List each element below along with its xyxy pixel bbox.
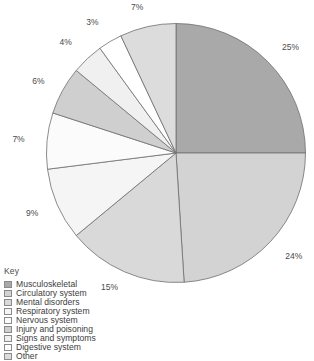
legend-color-swatch <box>4 317 12 324</box>
legend-color-swatch <box>4 326 12 333</box>
pie-slice-percentage-label: 9% <box>26 208 39 218</box>
legend-items: MusculoskeletalCirculatory systemMental … <box>3 280 153 360</box>
chart-legend: Key MusculoskeletalCirculatory systemMen… <box>3 266 153 361</box>
pie-slice-percentage-label: 25% <box>282 42 299 52</box>
legend-item-label: Other <box>16 352 38 361</box>
legend-color-swatch <box>4 299 12 306</box>
pie-slice-percentage-label: 6% <box>32 76 45 86</box>
legend-color-swatch <box>4 290 12 297</box>
pie-slice-percentage-label: 4% <box>60 37 73 47</box>
legend-color-swatch <box>4 308 12 315</box>
legend-title: Key <box>4 266 153 276</box>
legend-color-swatch <box>4 344 12 351</box>
legend-item: Other <box>3 352 153 361</box>
pie-slice-group <box>46 24 305 283</box>
legend-color-swatch <box>4 353 12 360</box>
pie-slice-percentage-label: 7% <box>12 134 25 144</box>
pie-slice-percentage-label: 7% <box>131 2 144 12</box>
pie-slice <box>176 153 306 282</box>
pie-slice-percentage-label: 3% <box>86 17 99 27</box>
pie-slice-percentage-label: 24% <box>285 251 302 261</box>
legend-color-swatch <box>4 281 12 288</box>
legend-color-swatch <box>4 335 12 342</box>
pie-chart-figure: 25%24%15%9%7%6%4%3%7% Key Musculoskeleta… <box>0 0 314 361</box>
